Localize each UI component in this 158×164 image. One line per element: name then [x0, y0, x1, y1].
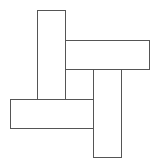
- horizontal-top-right-bar: [66, 41, 150, 70]
- vertical-top-left-bar: [38, 11, 66, 100]
- horizontal-bottom-left-bar: [11, 100, 94, 129]
- pinwheel-diagram: [0, 0, 158, 164]
- vertical-bottom-right-bar: [94, 70, 122, 158]
